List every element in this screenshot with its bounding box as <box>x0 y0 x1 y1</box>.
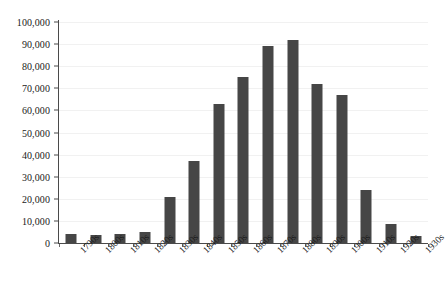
bar <box>336 95 347 243</box>
bar-slot <box>354 22 379 243</box>
bar <box>189 161 200 243</box>
x-axis-labels: 1790s1800s1810s1820s1830s1840s1850s1860s… <box>59 248 428 288</box>
bar-slot <box>182 22 207 243</box>
y-axis-tick-label: 0 <box>45 238 50 249</box>
y-axis-tick-label: 20,000 <box>22 193 50 204</box>
bar <box>213 104 224 243</box>
bar-slot <box>84 22 109 243</box>
bar <box>66 234 77 243</box>
y-axis-tick-label: 50,000 <box>22 127 50 138</box>
bar-slot <box>379 22 404 243</box>
y-axis-tick-label: 70,000 <box>22 83 50 94</box>
bar-series <box>59 22 428 243</box>
bar-slot <box>256 22 281 243</box>
y-axis-tick-label: 80,000 <box>22 61 50 72</box>
bar-slot <box>207 22 232 243</box>
bar <box>263 46 274 243</box>
bar-slot <box>231 22 256 243</box>
bar-slot <box>133 22 158 243</box>
bar <box>238 77 249 243</box>
y-axis-tick-label: 60,000 <box>22 105 50 116</box>
y-axis-tick-label: 10,000 <box>22 215 50 226</box>
x-axis-tick <box>59 244 60 247</box>
y-axis-tick-label: 40,000 <box>22 149 50 160</box>
bar-slot <box>59 22 84 243</box>
bar-slot <box>403 22 428 243</box>
bar <box>287 40 298 243</box>
bar-slot <box>305 22 330 243</box>
bar-slot <box>330 22 355 243</box>
y-axis-tick-label: 90,000 <box>22 39 50 50</box>
y-axis-tick-label: 100,000 <box>17 17 50 28</box>
y-axis-tick-label: 30,000 <box>22 171 50 182</box>
bar <box>312 84 323 243</box>
y-axis-labels: 010,00020,00030,00040,00050,00060,00070,… <box>0 0 58 288</box>
bar-slot <box>157 22 182 243</box>
bar-slot <box>280 22 305 243</box>
bar-slot <box>108 22 133 243</box>
